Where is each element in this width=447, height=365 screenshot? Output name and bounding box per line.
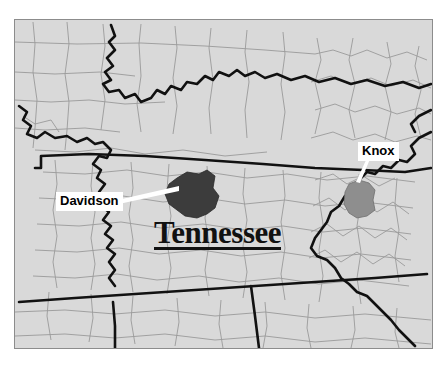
county-label-knox: Knox [358, 142, 399, 161]
county-knox-shape [344, 180, 375, 218]
map-frame: Davidson Knox Tennessee [14, 19, 433, 349]
map-canvas [15, 20, 432, 348]
state-title-text: Tennessee [154, 215, 281, 250]
county-label-davidson: Davidson [56, 192, 123, 211]
state-title: Tennessee [154, 216, 281, 250]
map-figure: Davidson Knox Tennessee [0, 0, 447, 365]
